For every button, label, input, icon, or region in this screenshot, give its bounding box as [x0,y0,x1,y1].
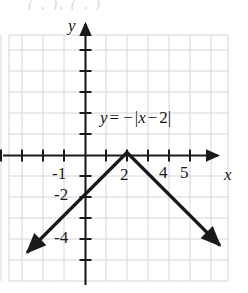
equation-equals: = [108,108,122,127]
x-tick-label-4: 4 [159,164,168,181]
y-axis-label: y [68,17,76,34]
equation-annotation: y=−|x−2| [100,109,171,126]
x-tick-label-2: 2 [120,166,129,183]
y-tick-label-neg4: -4 [54,229,68,246]
equation-operator: − [146,108,160,127]
coordinate-plane-svg [0,0,248,293]
equation-minus: − [121,108,135,127]
y-tick-label-neg2: -2 [54,186,68,203]
equation-constant: 2 [159,108,168,127]
x-tick-label-neg1: -1 [52,165,66,182]
graph-figure: ( , ), ( , ) [0,0,248,293]
equation-bar-close: | [168,108,171,127]
x-axis-label: x [224,166,232,183]
equation-y: y [100,108,108,127]
equation-x: x [138,108,146,127]
x-tick-label-5: 5 [180,164,189,181]
